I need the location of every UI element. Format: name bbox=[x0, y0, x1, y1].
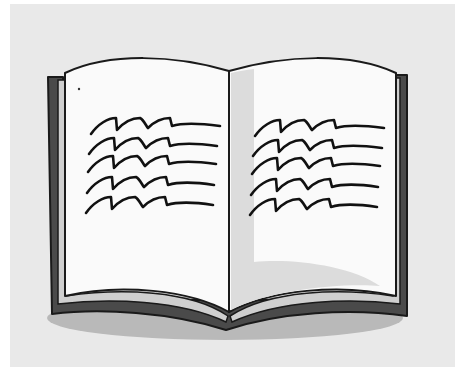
open-book-illustration bbox=[0, 0, 455, 367]
page-speck bbox=[78, 88, 80, 90]
